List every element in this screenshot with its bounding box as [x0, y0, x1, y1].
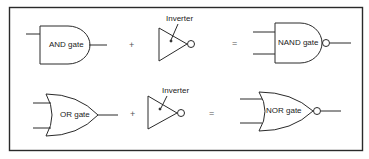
equals-sign-2: =	[209, 108, 214, 118]
inverter-symbol-1	[159, 24, 195, 61]
diagram-canvas	[0, 0, 369, 159]
or-gate-label: OR gate	[60, 110, 90, 119]
inverter-label-2: Inverter	[162, 86, 189, 95]
equals-sign-1: =	[232, 38, 237, 48]
and-gate-label: AND gate	[49, 40, 84, 49]
inverter-symbol-2	[148, 96, 185, 129]
nor-gate-label: NOR gate	[266, 106, 302, 115]
plus-sign-1: +	[129, 40, 134, 50]
plus-sign-2: +	[130, 109, 135, 119]
diagram-frame	[10, 8, 363, 151]
nand-gate-label: NAND gate	[278, 38, 318, 47]
inverter-label-1: Inverter	[166, 14, 193, 23]
